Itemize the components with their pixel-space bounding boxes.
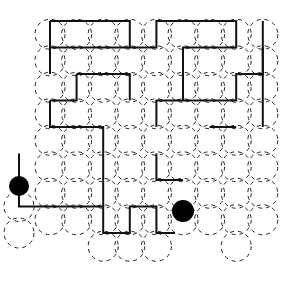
dashed-circle [221,205,251,235]
dashed-circle [88,99,118,129]
dashed-circle [115,178,145,208]
path-segment [77,74,130,101]
dashed-circle [115,99,145,129]
path-segment [19,154,175,234]
path-segment [156,154,183,181]
maze-path [19,21,263,233]
dashed-circle [141,125,171,155]
dashed-circle [221,178,251,208]
dashed-circle [195,72,225,102]
path-segment [156,48,262,128]
dashed-circle [141,231,171,261]
dashed-circle [62,99,92,129]
start-dot [9,176,29,196]
dashed-circle [141,72,171,102]
maze-diagram [0,0,282,293]
end-dot [172,200,194,222]
dashed-circle [35,178,65,208]
dashed-circle [195,46,225,76]
dashed-circle [4,218,34,248]
dashed-circle [248,205,278,235]
dashed-circle [195,99,225,129]
dashed-circle [35,125,65,155]
dashed-circle [35,152,65,182]
dashed-circle [221,231,251,261]
dashed-circle [115,231,145,261]
dashed-circle [195,125,225,155]
path-segment [50,21,236,101]
path-segment [50,74,77,101]
dashed-circle [35,205,65,235]
dashed-circle [115,46,145,76]
dashed-circle [115,125,145,155]
dashed-circle [88,231,118,261]
dashed-circle [221,152,251,182]
dashed-circle [88,46,118,76]
dashed-circle [88,72,118,102]
dashed-circle [221,125,251,155]
dashed-circle [168,152,198,182]
dashed-circle [168,19,198,49]
dashed-circle-grid [4,19,278,261]
dashed-circle [248,178,278,208]
dashed-circle [168,125,198,155]
dashed-circle [221,46,251,76]
dashed-circle [62,125,92,155]
dashed-circle [195,152,225,182]
dashed-circle [141,46,171,76]
dashed-circle [248,125,278,155]
path-segment [50,101,103,207]
dashed-circle [221,99,251,129]
dashed-circle [62,46,92,76]
dashed-circle [195,178,225,208]
dashed-circle [115,152,145,182]
dashed-circle [62,152,92,182]
dashed-circle [248,152,278,182]
dashed-circle [195,19,225,49]
dashed-circle [88,19,118,49]
dashed-circle [62,19,92,49]
dashed-circle [168,99,198,129]
dashed-circle [62,205,92,235]
dashed-circle [62,178,92,208]
dashed-circle [35,72,65,102]
dashed-circle [141,178,171,208]
dashed-circle [195,205,225,235]
